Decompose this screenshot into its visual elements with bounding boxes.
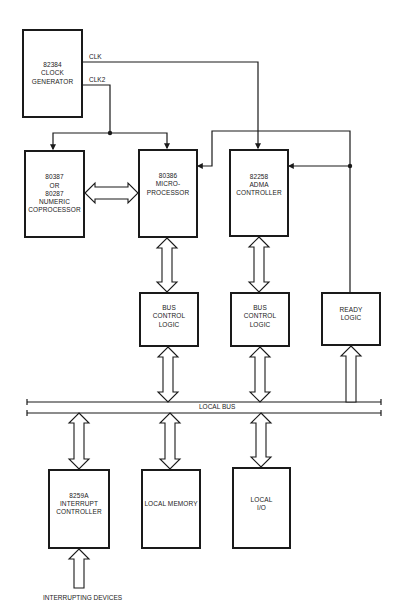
local-memory-block: LOCAL MEMORY bbox=[141, 469, 201, 549]
clock-generator-label: 82384 CLOCK GENERATOR bbox=[32, 61, 73, 86]
clock-generator-block: 82384 CLOCK GENERATOR bbox=[22, 29, 83, 118]
ready-junction-dot bbox=[348, 164, 352, 168]
cpu-busctl1-arrow bbox=[157, 238, 177, 292]
clk2-junction-dot bbox=[108, 131, 112, 135]
ready-logic-label: READY LOGIC bbox=[340, 306, 363, 322]
bus-control-logic-1-label: BUS CONTROL LOGIC bbox=[153, 304, 185, 329]
microprocessor-block: 80386 MICRO- PROCESSOR bbox=[138, 149, 198, 238]
clk2-to-microprocessor bbox=[110, 133, 167, 148]
clk-label: CLK bbox=[89, 53, 102, 60]
bus-control-logic-1-block: BUS CONTROL LOGIC bbox=[139, 292, 199, 347]
localbus-ready-arrow bbox=[341, 346, 361, 402]
local-memory-label: LOCAL MEMORY bbox=[144, 500, 197, 508]
interrupt-controller-block: 8259A INTERRUPT CONTROLLER bbox=[48, 469, 110, 549]
busctl2-localbus-arrow bbox=[250, 347, 270, 402]
interrupting-devices-arrow bbox=[69, 549, 89, 588]
local-io-label: LOCAL I/O bbox=[251, 496, 273, 512]
local-io-block: LOCAL I/O bbox=[232, 467, 291, 549]
coprocessor-label: 80387 OR 80287 NUMERIC COPROCESSOR bbox=[28, 173, 80, 214]
localbus-interrupt-arrow bbox=[69, 413, 89, 469]
coproc-cpu-bus-arrow bbox=[85, 183, 138, 203]
bus-control-logic-2-label: BUS CONTROL LOGIC bbox=[244, 304, 276, 329]
coprocessor-block: 80387 OR 80287 NUMERIC COPROCESSOR bbox=[24, 150, 85, 238]
localbus-io-arrow bbox=[251, 413, 271, 467]
ready-logic-block: READY LOGIC bbox=[321, 292, 381, 346]
clk2-label: CLK2 bbox=[89, 76, 105, 83]
busctl1-localbus-arrow bbox=[158, 347, 178, 402]
adma-controller-block: 82258 ADMA CONTROLLER bbox=[229, 149, 289, 237]
clk-line bbox=[83, 62, 258, 148]
adma-controller-label: 82258 ADMA CONTROLLER bbox=[236, 173, 281, 198]
clk2-line bbox=[83, 85, 110, 133]
adma-busctl2-arrow bbox=[249, 237, 269, 292]
microprocessor-label: 80386 MICRO- PROCESSOR bbox=[147, 172, 189, 197]
clk2-to-coprocessor bbox=[53, 133, 110, 149]
local-bus-label: LOCAL BUS bbox=[199, 403, 235, 410]
bus-control-logic-2-block: BUS CONTROL LOGIC bbox=[230, 292, 290, 347]
localbus-memory-arrow bbox=[160, 413, 180, 469]
interrupting-devices-label: INTERRUPTING DEVICES bbox=[43, 594, 122, 601]
interrupt-controller-label: 8259A INTERRUPT CONTROLLER bbox=[56, 492, 101, 517]
